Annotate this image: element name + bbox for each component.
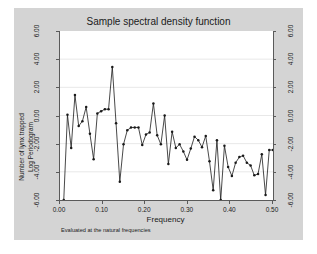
chart-title: Sample spectral density function: [14, 16, 303, 27]
y-tick-label-right: -2.00: [287, 131, 294, 157]
y-tick-mark-right: [273, 200, 276, 201]
y-tick-mark-left: [56, 172, 59, 173]
y-tick-label-left: -6.00: [33, 187, 40, 213]
y-tick-label-right: 2.00: [287, 74, 294, 100]
x-tick-label: 0.00: [44, 206, 74, 213]
figure-background: Sample spectral density function Number …: [14, 8, 303, 240]
y-tick-label-left: -4.00: [33, 159, 40, 185]
y-tick-mark-left: [56, 144, 59, 145]
x-tick-label: 0.10: [87, 206, 117, 213]
x-tick-label: 0.30: [172, 206, 202, 213]
y-tick-label-left: 4.00: [33, 46, 40, 72]
y-tick-label-right: 6.00: [287, 18, 294, 44]
y-tick-label-left: 2.00: [33, 74, 40, 100]
y-tick-mark-right: [273, 144, 276, 145]
x-tick-mark: [59, 201, 60, 204]
x-tick-mark: [144, 201, 145, 204]
y-tick-mark-left: [56, 59, 59, 60]
y-tick-mark-right: [273, 59, 276, 60]
x-tick-mark: [229, 201, 230, 204]
y-tick-mark-left: [56, 31, 59, 32]
y-tick-mark-right: [273, 116, 276, 117]
y-tick-label-left: 0.00: [33, 103, 40, 129]
y-tick-mark-right: [273, 172, 276, 173]
x-tick-label: 0.40: [214, 206, 244, 213]
x-axis-label: Frequency: [59, 215, 272, 224]
y-tick-label-right: 0.00: [287, 103, 294, 129]
x-tick-mark: [272, 201, 273, 204]
plot-area: [59, 31, 274, 201]
x-tick-mark: [102, 201, 103, 204]
y-tick-mark-right: [273, 87, 276, 88]
y-tick-label-left: -2.00: [33, 131, 40, 157]
y-tick-mark-right: [273, 31, 276, 32]
y-tick-mark-left: [56, 87, 59, 88]
y-tick-label-left: 6.00: [33, 18, 40, 44]
chart-note: Evaluated at the natural frequencies: [61, 227, 151, 233]
series-plot: [60, 31, 273, 200]
y-axis-label-line1: Number of lynx trapped: [18, 113, 25, 181]
y-tick-mark-left: [56, 116, 59, 117]
x-tick-mark: [187, 201, 188, 204]
chart-container: Sample spectral density function Number …: [14, 8, 303, 240]
y-tick-label-right: -6.00: [287, 187, 294, 213]
x-tick-label: 0.20: [129, 206, 159, 213]
x-tick-label: 0.50: [257, 206, 287, 213]
y-tick-label-right: -4.00: [287, 159, 294, 185]
y-tick-label-right: 4.00: [287, 46, 294, 72]
